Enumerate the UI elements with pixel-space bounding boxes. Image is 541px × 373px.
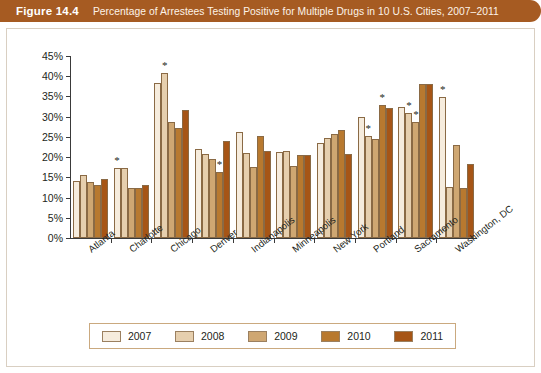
y-axis-tick-label: 15% bbox=[29, 171, 63, 183]
bar bbox=[154, 83, 161, 238]
legend-item-2011: 2011 bbox=[394, 330, 443, 342]
bar bbox=[264, 151, 271, 238]
bar bbox=[202, 154, 209, 238]
significance-asterisk: * bbox=[217, 159, 223, 170]
bar bbox=[398, 107, 405, 238]
bar bbox=[250, 167, 257, 238]
bar bbox=[236, 132, 243, 238]
bar bbox=[223, 141, 230, 238]
y-axis-tick-label: 35% bbox=[29, 90, 63, 102]
legend-label: 2008 bbox=[201, 330, 224, 342]
legend-item-2010: 2010 bbox=[321, 330, 370, 342]
y-axis-tick-label: 0% bbox=[29, 232, 63, 244]
bar bbox=[372, 139, 379, 238]
significance-asterisk: * bbox=[366, 123, 372, 134]
significance-asterisk: * bbox=[440, 84, 446, 95]
y-axis-tick-label: 40% bbox=[29, 70, 63, 82]
figure-banner: Figure 14.4 Percentage of Arrestees Test… bbox=[0, 0, 541, 22]
bar bbox=[358, 117, 365, 238]
figure-title: Percentage of Arrestees Testing Positive… bbox=[93, 6, 499, 17]
y-axis-tick-mark bbox=[66, 218, 70, 219]
y-axis-tick-label: 10% bbox=[29, 192, 63, 204]
bar bbox=[161, 73, 168, 238]
bar bbox=[379, 105, 386, 238]
bar bbox=[386, 108, 393, 238]
y-axis-tick-label: 5% bbox=[29, 212, 63, 224]
bar bbox=[405, 113, 412, 238]
bar bbox=[114, 168, 121, 238]
y-axis-tick-label: 30% bbox=[29, 111, 63, 123]
y-axis-tick-mark bbox=[66, 198, 70, 199]
y-axis-tick-mark bbox=[66, 76, 70, 77]
bar bbox=[80, 175, 87, 238]
bar bbox=[460, 188, 467, 238]
legend-swatch bbox=[175, 331, 194, 342]
legend-swatch bbox=[102, 331, 121, 342]
bar bbox=[168, 122, 175, 238]
bar bbox=[243, 153, 250, 238]
y-axis-tick-mark bbox=[66, 137, 70, 138]
bar bbox=[73, 181, 80, 238]
y-axis-line bbox=[70, 56, 71, 239]
bar bbox=[135, 188, 142, 238]
legend-swatch bbox=[394, 331, 413, 342]
figure-frame: 0%5%10%15%20%25%30%35%40%45% ******** At… bbox=[6, 28, 535, 367]
significance-asterisk: * bbox=[162, 60, 168, 71]
significance-asterisk: * bbox=[413, 109, 419, 120]
legend-item-2007: 2007 bbox=[102, 330, 151, 342]
bar bbox=[412, 122, 419, 238]
legend-item-2009: 2009 bbox=[248, 330, 297, 342]
legend-label: 2011 bbox=[420, 330, 443, 342]
chart-legend: 20072008200920102011 bbox=[89, 323, 456, 349]
y-axis-tick-mark bbox=[66, 238, 70, 239]
legend-swatch bbox=[321, 331, 340, 342]
legend-label: 2009 bbox=[274, 330, 297, 342]
y-axis-tick-label: 25% bbox=[29, 131, 63, 143]
bar bbox=[128, 188, 135, 238]
figure-number: Figure 14.4 bbox=[16, 5, 79, 17]
bar bbox=[175, 128, 182, 238]
legend-item-2008: 2008 bbox=[175, 330, 224, 342]
bar bbox=[419, 84, 426, 238]
bar bbox=[365, 136, 372, 238]
bar bbox=[290, 166, 297, 238]
legend-label: 2007 bbox=[128, 330, 151, 342]
y-axis-tick-mark bbox=[66, 177, 70, 178]
bar bbox=[426, 84, 433, 238]
legend-label: 2010 bbox=[347, 330, 370, 342]
significance-asterisk: * bbox=[380, 92, 386, 103]
bar bbox=[209, 159, 216, 238]
chart-plot-area: 0%5%10%15%20%25%30%35%40%45% ******** At… bbox=[7, 29, 536, 368]
y-axis-tick-mark bbox=[66, 117, 70, 118]
y-axis-tick-label: 45% bbox=[29, 50, 63, 62]
y-axis-tick-mark bbox=[66, 96, 70, 97]
bar bbox=[87, 182, 94, 238]
bar bbox=[338, 130, 345, 238]
bar bbox=[345, 154, 352, 238]
bar bbox=[182, 110, 189, 238]
legend-swatch bbox=[248, 331, 267, 342]
bar bbox=[467, 164, 474, 238]
significance-asterisk: * bbox=[406, 100, 412, 111]
significance-asterisk: * bbox=[114, 155, 120, 166]
y-axis-tick-mark bbox=[66, 157, 70, 158]
bar bbox=[439, 97, 446, 238]
bar bbox=[121, 168, 128, 238]
bar bbox=[216, 172, 223, 238]
bar bbox=[94, 185, 101, 238]
bar bbox=[297, 155, 304, 238]
bar bbox=[304, 155, 311, 238]
bar bbox=[257, 136, 264, 238]
y-axis-tick-mark bbox=[66, 56, 70, 57]
y-axis-tick-label: 20% bbox=[29, 151, 63, 163]
